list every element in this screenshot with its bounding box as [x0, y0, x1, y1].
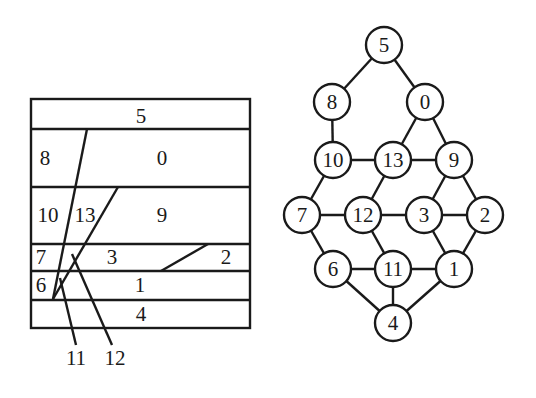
region-label: 1 — [135, 273, 146, 297]
region-label: 13 — [75, 203, 96, 227]
graph-node: 5 — [366, 27, 402, 63]
region-label: 7 — [36, 245, 47, 269]
graph-node: 9 — [436, 142, 472, 178]
region-label: 9 — [157, 203, 168, 227]
graph-node: 10 — [315, 142, 351, 178]
node-label: 7 — [297, 203, 308, 227]
node-label: 1 — [449, 257, 460, 281]
graph-node: 0 — [407, 84, 443, 120]
graph-node: 7 — [284, 197, 320, 233]
graph-node: 8 — [314, 84, 350, 120]
node-label: 6 — [328, 257, 339, 281]
node-label: 12 — [353, 203, 374, 227]
diagram-canvas: 580101397326141112 580101397123261114 — [0, 0, 536, 398]
graph-node: 2 — [467, 197, 503, 233]
graph-node: 11 — [375, 251, 411, 287]
region-label: 10 — [38, 203, 59, 227]
graph-node: 1 — [436, 251, 472, 287]
graph-node: 4 — [375, 305, 411, 341]
region-label: 8 — [40, 146, 51, 170]
node-label: 3 — [419, 203, 430, 227]
region-label: 6 — [36, 273, 47, 297]
partition-line — [60, 278, 76, 345]
node-label: 8 — [327, 90, 338, 114]
region-label: 11 — [66, 346, 86, 370]
region-label: 3 — [107, 245, 118, 269]
node-label: 0 — [420, 90, 431, 114]
region-label: 4 — [136, 302, 147, 326]
floorplan-partition: 580101397326141112 — [31, 99, 250, 370]
node-label: 10 — [323, 148, 344, 172]
region-label: 2 — [221, 245, 232, 269]
node-label: 4 — [388, 311, 399, 335]
graph-node: 13 — [375, 142, 411, 178]
region-label: 5 — [136, 104, 147, 128]
node-label: 11 — [383, 257, 403, 281]
node-label: 9 — [449, 148, 460, 172]
partition-line — [161, 244, 208, 271]
node-label: 13 — [383, 148, 404, 172]
graph-node: 6 — [315, 251, 351, 287]
region-label: 0 — [157, 146, 168, 170]
graph-node: 12 — [345, 197, 381, 233]
graph-node: 3 — [406, 197, 442, 233]
region-label: 12 — [105, 346, 126, 370]
node-label: 5 — [379, 33, 390, 57]
node-label: 2 — [480, 203, 491, 227]
